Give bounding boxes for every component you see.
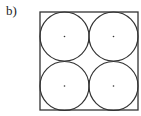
outer-square	[40, 12, 138, 110]
center-dot	[64, 36, 66, 38]
center-dot	[113, 36, 115, 38]
center-dot	[64, 85, 66, 87]
circle-bottom-left	[40, 62, 89, 111]
circle-top-left	[40, 12, 89, 61]
circle-bottom-right	[89, 62, 138, 111]
circles-in-square-diagram	[0, 0, 141, 116]
center-dot	[113, 85, 115, 87]
circle-top-right	[89, 12, 138, 61]
